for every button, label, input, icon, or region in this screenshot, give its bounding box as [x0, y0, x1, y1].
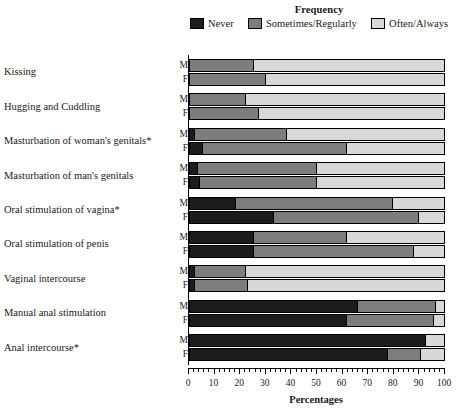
x-tick-minor: [255, 368, 256, 372]
x-tick-minor: [193, 368, 194, 372]
bar-segment-often-always: [259, 108, 444, 119]
bar-segment-often-always: [246, 266, 444, 277]
bar-segment-often-always: [347, 232, 444, 243]
x-tick-major: [367, 368, 368, 374]
legend-swatch-sometimes-icon: [248, 18, 262, 29]
subgroup-label-m: M: [177, 336, 188, 346]
x-tick-minor: [429, 368, 430, 372]
x-tick-label: 10: [209, 378, 219, 388]
bar-segment-often-always: [434, 315, 444, 326]
x-axis-title: Percentages: [188, 394, 444, 405]
x-tick-minor: [229, 368, 230, 372]
x-tick-minor: [208, 368, 209, 372]
bar-segment-sometimes-regularly: [254, 232, 348, 243]
bar-segment-often-always: [436, 301, 444, 312]
bar-segment-never: [190, 177, 200, 188]
bar-row: [189, 245, 445, 258]
category-label: Oral stimulation of penis: [4, 238, 167, 250]
subgroup-label-f: F: [177, 109, 188, 119]
x-tick-label: 30: [260, 378, 270, 388]
category-axis-labels: KissingHugging and CuddlingMasturbation …: [0, 55, 170, 365]
subgroup-label-m: M: [177, 267, 188, 277]
x-tick-minor: [424, 368, 425, 372]
subgroup-label-f: F: [177, 281, 188, 291]
subgroup-label-m: M: [177, 95, 188, 105]
category-label: Manual anal stimulation: [4, 307, 167, 319]
x-tick-minor: [439, 368, 440, 372]
bar-row: [189, 314, 445, 327]
bar-segment-never: [190, 163, 198, 174]
x-tick-major: [239, 368, 240, 374]
category-label: Vaginal intercourse: [4, 273, 167, 285]
x-axis: [188, 368, 444, 369]
bar-row: [189, 197, 445, 210]
bar-segment-sometimes-regularly: [195, 280, 248, 291]
bar-row: [189, 59, 445, 72]
x-tick-major: [444, 368, 445, 374]
bar-row: [189, 176, 445, 189]
bar-segment-often-always: [287, 129, 444, 140]
x-tick-minor: [249, 368, 250, 372]
x-tick-minor: [362, 368, 363, 372]
x-tick-label: 40: [286, 378, 296, 388]
bar-group: MF: [189, 197, 445, 224]
category-label: Masturbation of woman's genitals*: [4, 135, 167, 147]
bar-segment-often-always: [266, 74, 444, 85]
x-tick-minor: [388, 368, 389, 372]
x-tick-minor: [398, 368, 399, 372]
legend-item-sometimes: Sometimes/Regularly: [248, 18, 357, 29]
x-tick-minor: [244, 368, 245, 372]
bar-segment-sometimes-regularly: [236, 198, 393, 209]
x-tick-minor: [408, 368, 409, 372]
x-tick-minor: [372, 368, 373, 372]
x-tick-minor: [306, 368, 307, 372]
x-tick-minor: [301, 368, 302, 372]
bar-row: [189, 142, 445, 155]
bar-row: [189, 211, 445, 224]
x-tick-major: [418, 368, 419, 374]
x-tick-major: [214, 368, 215, 374]
x-tick-minor: [311, 368, 312, 372]
legend-item-often: Often/Always: [371, 18, 448, 29]
x-tick-major: [290, 368, 291, 374]
bar-segment-never: [190, 301, 358, 312]
legend-label-never: Never: [208, 18, 234, 29]
bar-row: [189, 279, 445, 292]
x-tick-minor: [326, 368, 327, 372]
bar-segment-sometimes-regularly: [200, 177, 317, 188]
bar-row: [189, 73, 445, 86]
bar-row: [189, 334, 445, 347]
bar-segment-often-always: [317, 163, 444, 174]
category-label: Hugging and Cuddling: [4, 101, 167, 113]
stacked-bar-chart: Frequency Never Sometimes/Regularly Ofte…: [0, 0, 456, 420]
bar-segment-never: [190, 315, 347, 326]
x-tick-minor: [403, 368, 404, 372]
x-tick-minor: [331, 368, 332, 372]
subgroup-label-f: F: [177, 247, 188, 257]
bar-segment-often-always: [426, 335, 444, 346]
bar-row: [189, 162, 445, 175]
legend-item-never: Never: [190, 18, 234, 29]
bar-segment-often-always: [347, 143, 444, 154]
x-tick-minor: [357, 368, 358, 372]
x-tick-minor: [198, 368, 199, 372]
x-tick-minor: [203, 368, 204, 372]
x-tick-major: [393, 368, 394, 374]
x-tick-minor: [234, 368, 235, 372]
x-tick-minor: [224, 368, 225, 372]
bar-segment-sometimes-regularly: [388, 349, 421, 360]
chart-legend: Frequency Never Sometimes/Regularly Ofte…: [188, 4, 450, 29]
bar-row: [189, 128, 445, 141]
bar-segment-sometimes-regularly: [190, 60, 254, 71]
bar-group: MF: [189, 231, 445, 258]
x-tick-minor: [260, 368, 261, 372]
bar-segment-never: [190, 335, 426, 346]
bar-segment-sometimes-regularly: [190, 74, 266, 85]
category-label: Masturbation of man's genitals: [4, 170, 167, 182]
bar-segment-never: [190, 143, 203, 154]
legend-label-often: Often/Always: [389, 18, 448, 29]
bar-segment-sometimes-regularly: [203, 143, 348, 154]
bar-group: MF: [189, 162, 445, 189]
bar-segment-often-always: [317, 177, 444, 188]
bar-group: MF: [189, 128, 445, 155]
